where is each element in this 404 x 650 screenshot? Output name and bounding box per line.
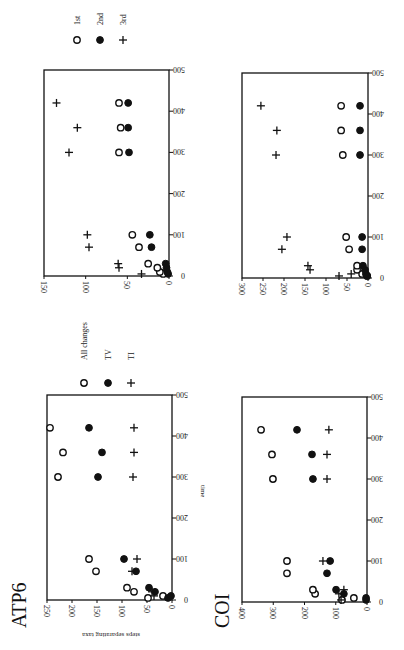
data-point [319, 557, 327, 565]
data-point [55, 474, 61, 480]
time-tick-label: 500 [176, 390, 188, 399]
time-tick-label: 0 [181, 271, 185, 280]
data-point [309, 451, 316, 458]
data-point [83, 231, 91, 239]
data-point [73, 124, 81, 132]
steps-tick-label: 150 [300, 283, 309, 295]
time-tick-label: 100 [176, 554, 188, 563]
data-point [129, 232, 135, 238]
steps-tick-label: 0 [363, 283, 372, 287]
data-point [324, 570, 331, 577]
data-point [168, 593, 175, 600]
data-point [131, 589, 137, 595]
data-point [125, 100, 132, 107]
time-tick-label: 500 [173, 65, 185, 74]
steps-tick-label: 50 [122, 281, 131, 289]
steps-tick-label: 300 [237, 283, 246, 295]
data-point [323, 450, 331, 458]
data-point [360, 262, 367, 269]
time-tick-label: 500 [371, 392, 383, 401]
data-point [357, 127, 364, 134]
time-tick-label: 400 [371, 433, 383, 442]
data-point [116, 149, 122, 155]
data-point [363, 595, 370, 602]
axis-title-steps: steps separating taxa [81, 631, 140, 639]
data-point [86, 424, 93, 431]
legend-label: TI [127, 352, 136, 360]
data-point [343, 234, 349, 240]
data-point [65, 148, 73, 156]
time-tick-label: 200 [173, 189, 185, 198]
data-point [284, 570, 290, 576]
steps-tick-label: 0 [164, 281, 173, 285]
data-point [257, 102, 265, 110]
data-point [327, 558, 334, 565]
data-point [258, 427, 264, 433]
data-point [148, 244, 155, 251]
axis-title-time: time [199, 485, 207, 497]
data-point [357, 152, 364, 159]
legend-marker [74, 37, 80, 43]
data-point [117, 124, 123, 130]
data-point [85, 243, 93, 251]
data-point [283, 233, 291, 241]
data-point [306, 266, 314, 274]
legend-marker [127, 379, 135, 387]
data-point [162, 260, 169, 267]
data-point [60, 449, 66, 455]
data-point [126, 149, 133, 156]
figure: 01002003004005000501001501st2nd3rd010020… [0, 0, 404, 650]
steps-tick-label: 150 [92, 605, 101, 617]
data-point [310, 476, 317, 483]
data-point [272, 151, 280, 159]
data-point [351, 595, 357, 601]
time-tick-label: 0 [380, 273, 384, 282]
data-point [273, 126, 281, 134]
time-tick-label: 0 [379, 597, 383, 606]
time-tick-label: 200 [176, 513, 188, 522]
time-tick-label: 400 [173, 106, 185, 115]
data-point [115, 264, 123, 272]
data-point [53, 99, 61, 107]
data-point [310, 587, 316, 593]
data-point [95, 474, 102, 481]
data-point [154, 265, 160, 271]
time-tick-label: 300 [372, 150, 384, 159]
steps-tick-label: 200 [300, 607, 309, 619]
legend-marker [81, 380, 87, 386]
data-point [136, 244, 142, 250]
gene-label-coi: COI [211, 594, 233, 628]
time-tick-label: 100 [372, 232, 384, 241]
steps-tick-label: 300 [268, 607, 277, 619]
steps-tick-label: 200 [67, 605, 76, 617]
steps-tick-label: 100 [81, 281, 90, 293]
data-point [323, 475, 331, 483]
data-point [325, 426, 333, 434]
legend-marker [119, 36, 127, 44]
data-point [269, 451, 275, 457]
time-tick-label: 400 [176, 431, 188, 440]
data-point [125, 124, 132, 131]
steps-tick-label: 400 [237, 607, 246, 619]
panel-coi-codon: 0100200300400500050100150200250300 [237, 68, 384, 295]
data-point [130, 448, 138, 456]
time-tick-label: 400 [372, 109, 384, 118]
data-point [284, 558, 290, 564]
time-tick-label: 100 [173, 230, 185, 239]
steps-tick-label: 100 [117, 605, 126, 617]
data-point [340, 152, 346, 158]
steps-tick-label: 0 [167, 605, 176, 609]
legend-label: All changes [80, 322, 89, 360]
data-point [146, 231, 153, 238]
steps-tick-label: 0 [362, 607, 371, 611]
steps-tick-label: 50 [342, 283, 351, 291]
time-tick-label: 200 [372, 191, 384, 200]
time-tick-label: 300 [176, 472, 188, 481]
panel-atp6-changes: 0100200300400500050100150200250All chang… [42, 322, 188, 617]
data-point [116, 100, 122, 106]
data-point [338, 127, 344, 133]
steps-tick-label: 150 [39, 281, 48, 293]
legend-label: 2nd [96, 13, 105, 25]
data-point [359, 234, 366, 241]
panel-coi-changes: 01002003004005000100200300400 [237, 392, 383, 619]
